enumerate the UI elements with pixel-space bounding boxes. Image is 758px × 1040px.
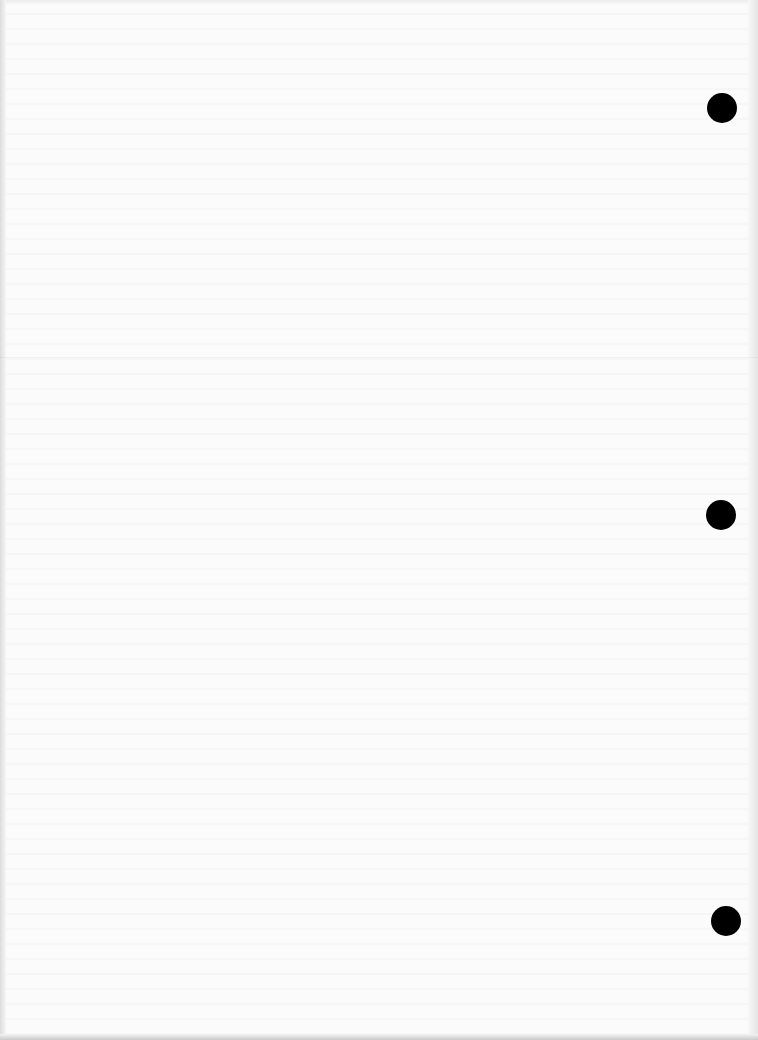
punch-hole [706,500,736,530]
punch-hole [707,93,737,123]
punch-hole [711,906,741,936]
page-edge-bottom [0,1034,758,1040]
fold-line [0,357,758,358]
page-edge-right [748,0,758,1040]
scanned-blank-page [0,0,758,1040]
page-edge-left [0,0,6,1040]
page-edge-top [0,0,758,5]
